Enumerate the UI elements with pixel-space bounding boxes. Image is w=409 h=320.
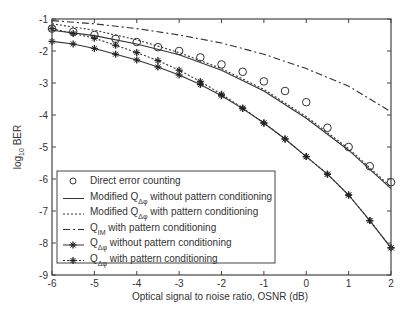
x-axis-label: Optical signal to noise ratio, OSNR (dB): [132, 291, 308, 302]
y-tick-label: -7: [39, 206, 48, 217]
x-tick-label: 0: [303, 278, 309, 289]
y-tick-label: -9: [39, 270, 48, 281]
legend: Direct error countingModified QΔφ withou…: [57, 171, 275, 268]
y-tick-label: -3: [39, 78, 48, 89]
y-tick-label: -2: [39, 46, 48, 57]
x-tick-label: -3: [175, 278, 184, 289]
series-2: [52, 24, 391, 187]
series-0: [48, 25, 395, 186]
x-tick-label: 2: [388, 278, 394, 289]
x-tick-label: -4: [132, 278, 141, 289]
x-tick-label: -2: [217, 278, 226, 289]
y-tick-label: -6: [39, 174, 48, 185]
y-tick-label: -4: [39, 110, 48, 121]
legend-entry: Direct error counting: [90, 175, 181, 186]
x-tick-label: 1: [346, 278, 352, 289]
x-tick-label: -6: [48, 278, 57, 289]
series-1: [52, 30, 391, 188]
ber-chart: -6-5-4-3-2-1012-1-2-3-4-5-6-7-8-9 Direct…: [0, 0, 409, 320]
legend-entry: QΔφ with pattern conditioning: [90, 253, 218, 268]
x-tick-label: -1: [259, 278, 268, 289]
y-tick-label: -8: [39, 238, 48, 249]
y-tick-label: -1: [39, 14, 48, 25]
x-tick-label: -5: [90, 278, 99, 289]
y-axis-label: log10 BER: [12, 125, 25, 170]
y-tick-label: -5: [39, 142, 48, 153]
